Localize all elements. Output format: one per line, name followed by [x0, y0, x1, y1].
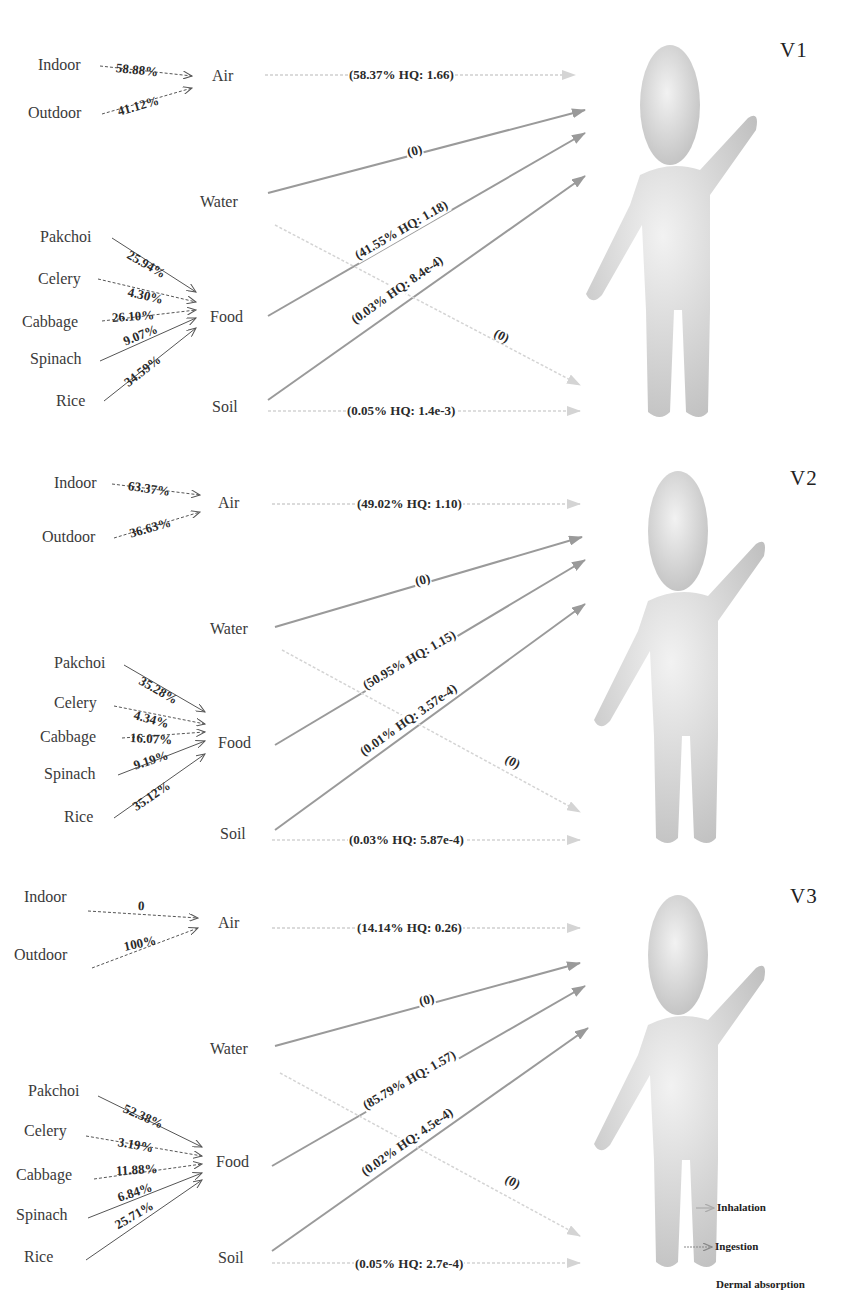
node-food: Food: [210, 308, 243, 326]
scenario-label-v2: V2: [790, 466, 818, 491]
source-pakchoi: Pakchoi: [54, 654, 106, 672]
legend-ingestion: Ingestion: [715, 1240, 758, 1252]
air-inhalation-label: (58.37% HQ: 1.66): [348, 67, 455, 83]
node-food: Food: [218, 734, 251, 752]
node-air: Air: [212, 67, 233, 85]
legend-inhalation: Inhalation: [717, 1201, 766, 1213]
source-celery: Celery: [54, 694, 97, 712]
scenario-label-v1: V1: [780, 38, 808, 63]
human-figure-icon: [570, 10, 730, 430]
source-spinach: Spinach: [44, 765, 96, 783]
node-water: Water: [210, 620, 248, 638]
soil-dermal-label: (0.03% HQ: 5.87e-4): [348, 832, 465, 848]
node-water: Water: [200, 193, 238, 211]
soil-dermal-label: (0.05% HQ: 1.4e-3): [346, 403, 456, 419]
panel-v2: Indoor Outdoor 63.37% 36.63% Air Water F…: [0, 432, 847, 866]
source-cabbage: Cabbage: [22, 313, 78, 331]
source-rice: Rice: [64, 808, 93, 826]
source-pakchoi: Pakchoi: [40, 228, 92, 246]
air-inhalation-label: (49.02% HQ: 1.10): [356, 496, 463, 512]
source-outdoor: Outdoor: [42, 528, 95, 546]
exposure-pathway-diagram: Indoor Outdoor 58.88% 41.12% Air Water F…: [0, 0, 847, 1302]
source-celery: Celery: [38, 270, 81, 288]
node-air: Air: [218, 494, 239, 512]
human-figure-icon: [578, 436, 738, 856]
source-outdoor: Outdoor: [28, 104, 81, 122]
source-indoor: Indoor: [54, 474, 97, 492]
cabbage-pct: 16.07%: [130, 730, 173, 748]
node-soil: Soil: [220, 825, 246, 843]
legend-arrows: [0, 868, 847, 1302]
source-indoor: Indoor: [38, 56, 81, 74]
panel-v3: Indoor Outdoor 0 100% Air Water Food Soi…: [0, 868, 847, 1302]
panel-v1: Indoor Outdoor 58.88% 41.12% Air Water F…: [0, 0, 847, 434]
node-soil: Soil: [212, 398, 238, 416]
source-rice: Rice: [56, 392, 85, 410]
source-cabbage: Cabbage: [40, 728, 96, 746]
legend-dermal-absorption: Dermal absorption: [716, 1278, 805, 1290]
source-spinach: Spinach: [30, 350, 82, 368]
